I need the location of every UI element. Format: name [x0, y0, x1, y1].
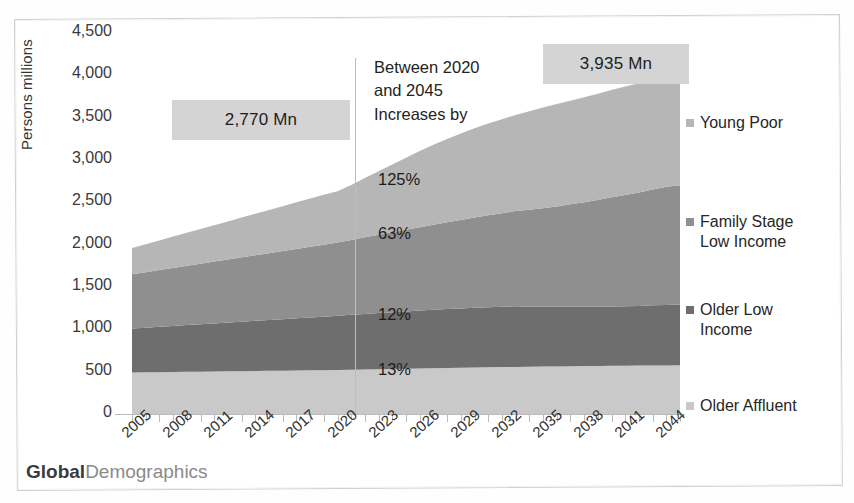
brand-logo: GlobalDemographics — [26, 461, 208, 483]
brand-name-bold: Global — [26, 461, 85, 482]
x-axis-tick-label: 2023 — [365, 406, 401, 441]
chart-legend: Young Poor Family Stage Low Income Older… — [686, 0, 854, 503]
legend-label-older-affluent: Older Affluent — [700, 396, 820, 416]
growth-label-family-stage-low-income: 63% — [378, 224, 411, 243]
legend-swatch-young-poor — [686, 119, 694, 127]
x-axis-tick-label: 2014 — [241, 406, 277, 441]
chart-stage: Persons millions 4,5004,0003,5003,0002,5… — [0, 0, 854, 503]
legend-label-family-stage-low-income: Family Stage Low Income — [700, 212, 820, 253]
x-axis-tick-label: 2008 — [159, 406, 195, 441]
legend-label-young-poor: Young Poor — [700, 113, 820, 133]
x-axis-tick-label: 2020 — [324, 406, 360, 441]
growth-label-older-low-income: 12% — [378, 305, 411, 324]
callout-end-total: 3,935 Mn — [543, 44, 689, 84]
legend-swatch-older-low-income — [686, 306, 694, 314]
x-axis-tick-label: 2029 — [447, 406, 483, 441]
legend-item-family-stage-low-income: Family Stage Low Income — [686, 212, 820, 253]
brand-name-light: Demographics — [85, 461, 208, 482]
x-axis-tick-label: 2044 — [652, 406, 688, 441]
annotation-block: Between 2020 and 2045 Increases by — [374, 56, 524, 126]
legend-item-older-affluent: Older Affluent — [686, 396, 820, 416]
legend-item-older-low-income: Older Low Income — [686, 300, 820, 341]
legend-item-young-poor: Young Poor — [686, 113, 820, 133]
growth-label-older-affluent: 13% — [378, 360, 411, 379]
callout-start-total: 2,770 Mn — [172, 100, 350, 140]
x-axis-tick-label: 2017 — [282, 406, 318, 441]
x-axis-tick-label: 2035 — [529, 406, 565, 441]
x-axis-tick-label: 2038 — [570, 406, 606, 441]
legend-swatch-family-stage-low-income — [686, 218, 694, 226]
chart-screenshot: Persons millions 4,5004,0003,5003,0002,5… — [0, 0, 854, 503]
legend-swatch-older-affluent — [686, 402, 694, 410]
x-axis-tick-label: 2032 — [488, 406, 524, 441]
growth-label-young-poor: 125% — [378, 170, 420, 189]
legend-label-older-low-income: Older Low Income — [700, 300, 820, 341]
annotation-line-2: and 2045 — [374, 79, 524, 102]
annotation-line-1: Between 2020 — [374, 56, 524, 79]
annotation-line-3: Increases by — [374, 103, 524, 126]
x-axis-tick-label: 2041 — [611, 406, 647, 441]
x-axis-tick-label: 2005 — [118, 406, 154, 441]
x-axis-tick-label: 2026 — [406, 406, 442, 441]
x-axis-tick-label: 2011 — [200, 406, 235, 440]
